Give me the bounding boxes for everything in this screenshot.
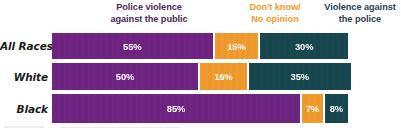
scan-artifact [4, 126, 44, 128]
bar-segments-white: 50% 16% 35% [52, 63, 344, 90]
bar-segment-police-violence: 85% [52, 94, 300, 123]
bar-value-label: 50% [116, 71, 134, 82]
bar-segment-violence-against-police: 35% [249, 63, 351, 90]
row-label-black: Black [0, 103, 48, 115]
bar-value-label: 30% [295, 41, 313, 52]
bar-segments-black: 85% 7% 8% [52, 94, 344, 123]
legend-label-line2: No opinion [237, 14, 313, 26]
bar-value-label: 15% [227, 41, 245, 52]
bar-value-label: 7% [306, 103, 319, 114]
bar-segment-dont-know: 15% [215, 33, 259, 59]
bar-row-black: Black 85% 7% 8% [0, 94, 349, 123]
row-label-white: White [0, 71, 48, 83]
bar-segment-dont-know: 7% [302, 94, 322, 123]
legend-label-line1: Police violence [74, 2, 224, 14]
bar-row-white: White 50% 16% 35% [0, 63, 349, 90]
legend-label-line1: Violence against [315, 2, 401, 14]
bar-value-label: 35% [291, 71, 309, 82]
scan-artifact [60, 127, 180, 128]
row-label-all-races: All Races [0, 40, 48, 52]
bar-segment-violence-against-police: 30% [260, 33, 348, 59]
bar-segment-police-violence: 50% [52, 63, 198, 90]
bar-segment-police-violence: 55% [52, 33, 213, 59]
legend-label-line2: the police [315, 14, 401, 26]
legend-label-line1: Don't know/ [237, 2, 313, 14]
chart-legend: Police violence against the public Don't… [52, 0, 344, 32]
bar-row-all-races: All Races 55% 15% 30% [0, 33, 349, 59]
bar-value-label: 55% [123, 41, 141, 52]
bar-segment-violence-against-police: 8% [325, 94, 348, 123]
bar-segment-dont-know: 16% [200, 63, 247, 90]
legend-item-violence-against-police: Violence against the police [315, 2, 401, 25]
bar-value-label: 85% [167, 103, 185, 114]
legend-item-dont-know-no-opinion: Don't know/ No opinion [237, 2, 313, 25]
legend-item-police-violence-against-public: Police violence against the public [74, 2, 224, 25]
bar-value-label: 16% [214, 71, 232, 82]
legend-label-line2: against the public [74, 14, 224, 26]
bar-segments-all-races: 55% 15% 30% [52, 33, 344, 59]
bar-value-label: 8% [330, 103, 343, 114]
